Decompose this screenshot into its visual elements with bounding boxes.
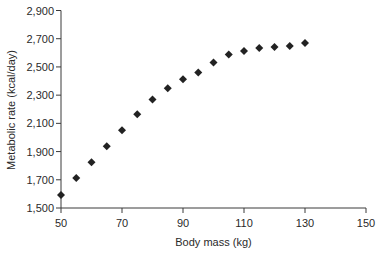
diamond-marker [88, 158, 96, 166]
diamond-marker [57, 191, 65, 199]
y-tick-label: 1,900 [26, 146, 54, 158]
diamond-marker [240, 47, 248, 55]
diamond-marker [301, 39, 309, 47]
diamond-marker [133, 110, 141, 118]
diamond-marker [210, 58, 218, 66]
x-tick-label: 110 [235, 217, 253, 229]
x-tick-label: 50 [55, 217, 67, 229]
diamond-marker [118, 126, 126, 134]
x-axis: 507090110130150 [55, 208, 375, 229]
x-tick-label: 130 [296, 217, 314, 229]
y-tick-label: 2,900 [26, 5, 54, 17]
y-tick-label: 1,700 [26, 174, 54, 186]
x-tick-label: 150 [357, 217, 375, 229]
diamond-marker [286, 42, 294, 50]
diamond-marker [271, 43, 279, 51]
diamond-marker [179, 75, 187, 83]
diamond-marker [164, 84, 172, 92]
y-tick-label: 2,700 [26, 33, 54, 45]
x-axis-title: Body mass (kg) [175, 236, 251, 248]
data-points [57, 39, 309, 199]
x-tick-label: 70 [116, 217, 128, 229]
diamond-marker [72, 174, 80, 182]
diamond-marker [149, 95, 157, 103]
y-tick-label: 2,100 [26, 117, 54, 129]
diamond-marker [255, 44, 263, 52]
diamond-marker [194, 68, 202, 76]
y-axis: 1,5001,7001,9002,1002,3002,5002,7002,900 [26, 5, 61, 215]
diamond-marker [225, 51, 233, 59]
diamond-marker [103, 142, 111, 150]
y-tick-label: 2,300 [26, 89, 54, 101]
y-axis-title: Metabolic rate (kcal/day) [5, 50, 17, 170]
scatter-chart: 1,5001,7001,9002,1002,3002,5002,7002,900… [0, 0, 382, 260]
x-tick-label: 90 [177, 217, 189, 229]
y-tick-label: 1,500 [26, 202, 54, 214]
y-tick-label: 2,500 [26, 61, 54, 73]
